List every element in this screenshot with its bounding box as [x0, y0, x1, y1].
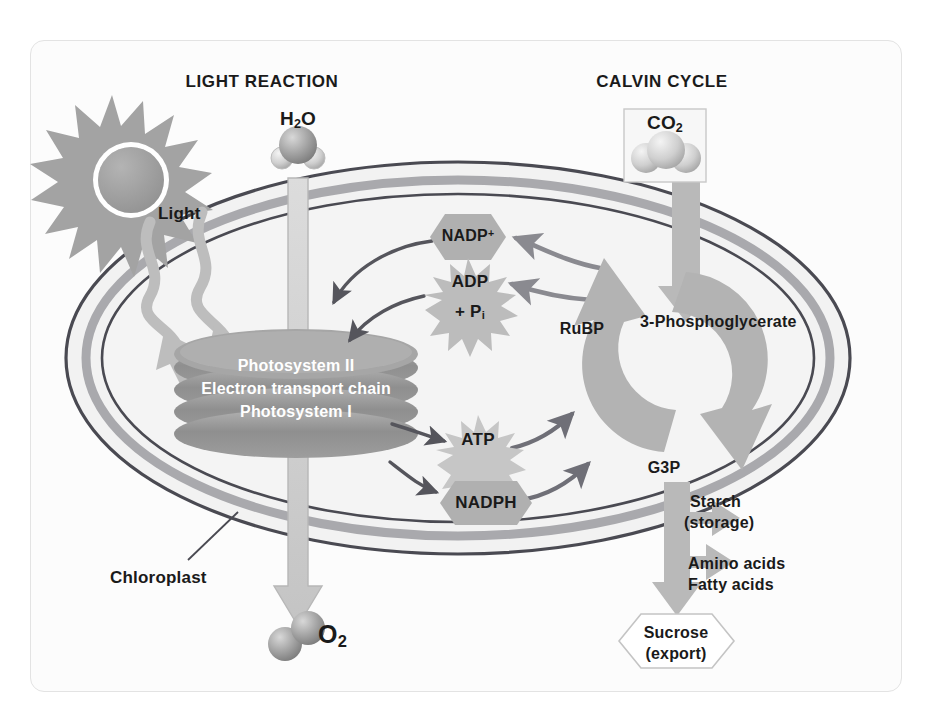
sucrose-label: Sucrose	[644, 624, 709, 642]
oxygen-label: O2	[318, 620, 347, 651]
nadph-label: NADPH	[455, 493, 516, 513]
water-label-h: H	[280, 108, 294, 129]
thylakoid-label-electron-transport-chain: Electron transport chain	[201, 380, 391, 398]
g3p-label: G3P	[648, 459, 681, 477]
three-phosphoglycerate-label: 3-Phosphoglycerate	[640, 313, 797, 331]
nadp-text: NADP	[442, 227, 488, 244]
nadp-charge: +	[488, 227, 494, 239]
co2-label: CO2	[647, 112, 683, 135]
co2-label-2: 2	[676, 121, 683, 135]
starch-storage-label: (storage)	[684, 514, 754, 532]
co2-label-co: CO	[647, 112, 676, 133]
oxygen-label-2: 2	[338, 632, 347, 650]
adp-pi-sub: i	[482, 309, 485, 321]
chloroplast-label: Chloroplast	[110, 568, 207, 588]
thylakoid-label-photosystem-2: Photosystem II	[238, 357, 355, 375]
diagram-canvas: LIGHT REACTION CALVIN CYCLE H2O CO2 Ligh…	[0, 0, 931, 722]
rubp-label: RuBP	[560, 320, 604, 338]
thylakoid-label-photosystem-1: Photosystem I	[240, 403, 352, 421]
section-title-light-reaction: LIGHT REACTION	[186, 72, 339, 92]
adp-phosphate-label: + Pi	[455, 302, 485, 322]
chloroplast-leader-line	[188, 512, 238, 560]
section-title-calvin-cycle: CALVIN CYCLE	[596, 72, 728, 92]
oxygen-molecule	[268, 611, 325, 661]
water-label-o: O	[301, 108, 316, 129]
atp-label: ATP	[461, 430, 494, 450]
sucrose-export-label: (export)	[645, 645, 706, 663]
oxygen-label-o: O	[318, 620, 338, 648]
adp-label: ADP	[452, 272, 489, 292]
starch-label: Starch	[690, 493, 741, 511]
amino-acids-label: Amino acids	[688, 555, 785, 573]
fatty-acids-label: Fatty acids	[688, 576, 774, 594]
nadp-plus-label: NADP+	[442, 227, 495, 245]
water-molecule	[271, 126, 325, 169]
adp-pi-prefix: + P	[455, 302, 482, 321]
diagram-artwork	[0, 0, 931, 722]
light-label: Light	[158, 204, 201, 224]
water-label: H2O	[280, 108, 316, 131]
